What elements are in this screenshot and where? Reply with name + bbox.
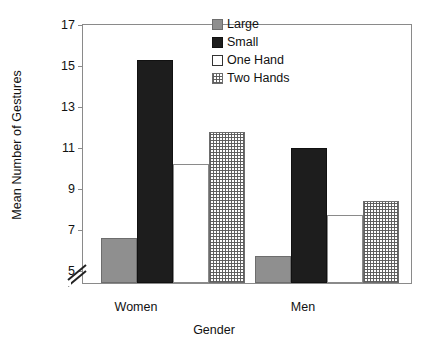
x-tick-label-women: Women <box>76 300 196 314</box>
bar-women-small <box>137 60 173 283</box>
legend-swatch-small-icon <box>212 37 223 48</box>
legend-item-one-hand[interactable]: One Hand <box>212 53 290 67</box>
y-axis-title: Mean Number of Gestures <box>6 0 28 290</box>
legend-item-two-hands[interactable]: Two Hands <box>212 71 290 85</box>
y-axis-tick-label: 13 <box>61 100 75 114</box>
x-tick-label-men: Men <box>243 300 363 314</box>
bar-men-small <box>291 148 327 283</box>
y-axis-tick <box>78 148 83 149</box>
legend-swatch-one-hand-icon <box>212 55 223 66</box>
legend-item-small[interactable]: Small <box>212 35 290 49</box>
bar-women-one-hand <box>173 164 209 283</box>
y-axis-tick-label: 7 <box>68 223 75 237</box>
bar-men-two-hands <box>363 201 399 283</box>
x-axis-title: Gender <box>0 323 428 337</box>
legend-label-large: Large <box>227 17 259 31</box>
y-axis-title-text: Mean Number of Gestures <box>10 70 24 220</box>
legend-swatch-two-hands-icon <box>212 73 223 84</box>
legend-label-two-hands: Two Hands <box>227 71 290 85</box>
y-axis-tick-label: 11 <box>62 141 75 155</box>
y-axis-tick <box>78 25 83 26</box>
legend-label-one-hand: One Hand <box>227 53 284 67</box>
bar-women-two-hands <box>209 132 245 283</box>
y-axis-tick-label: 17 <box>61 18 75 32</box>
y-axis-tick <box>78 230 83 231</box>
bar-men-large <box>255 256 291 283</box>
y-axis-tick-label: 15 <box>61 59 75 73</box>
bar-women-large <box>101 238 137 283</box>
bar-men-one-hand <box>327 215 363 283</box>
bar-chart: Mean Number of Gestures 57911131517 Wome… <box>0 0 428 346</box>
legend-swatch-large-icon <box>212 19 223 30</box>
y-axis-tick <box>78 189 83 190</box>
legend-item-large[interactable]: Large <box>212 17 290 31</box>
legend-label-small: Small <box>227 35 258 49</box>
y-axis-tick <box>78 107 83 108</box>
y-axis-tick-label: 9 <box>68 182 75 196</box>
legend: Large Small One Hand Two Hands <box>212 17 290 85</box>
axis-break-icon <box>66 262 92 288</box>
y-axis-tick <box>78 66 83 67</box>
